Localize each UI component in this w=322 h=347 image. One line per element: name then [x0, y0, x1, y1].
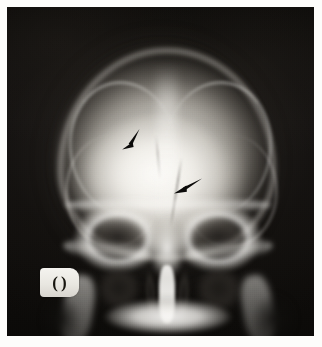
radiograph-page: ( )	[0, 0, 322, 347]
xray-film-field: ( )	[7, 7, 314, 336]
marker-glyph-right: )	[61, 274, 67, 291]
marker-glyph-left: (	[52, 274, 58, 291]
arrow-upper-glyph	[119, 127, 145, 153]
annotation-arrow-lower	[173, 177, 203, 199]
mandible-maxilla	[103, 299, 233, 336]
soft-tissue-shadow-right	[251, 293, 297, 336]
soft-tissue-shadow-left	[41, 293, 81, 336]
arrow-lower-glyph	[173, 177, 203, 199]
laterality-lead-marker: ( )	[40, 268, 79, 297]
annotation-arrow-upper	[119, 127, 145, 153]
